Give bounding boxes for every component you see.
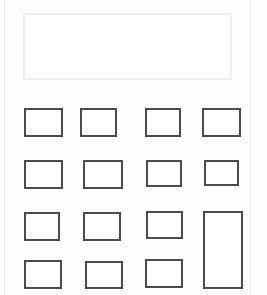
- key-r3c1[interactable]: [24, 212, 60, 241]
- key-r3c3[interactable]: [146, 211, 183, 239]
- key-r4c1[interactable]: [24, 260, 62, 289]
- key-r4c2[interactable]: [85, 261, 123, 289]
- calculator-keypad: [5, 0, 250, 295]
- calculator-app: [0, 0, 267, 295]
- calculator-body: [5, 0, 250, 295]
- key-r3c2[interactable]: [83, 212, 121, 241]
- key-r2c2[interactable]: [83, 160, 123, 189]
- key-equals[interactable]: [203, 211, 243, 289]
- panel-edge-right: [250, 0, 251, 295]
- key-r1c1[interactable]: [24, 108, 63, 137]
- key-r4c3[interactable]: [145, 259, 183, 288]
- key-r1c2[interactable]: [80, 108, 117, 137]
- key-r2c1[interactable]: [24, 160, 63, 189]
- key-r1c3[interactable]: [145, 108, 181, 137]
- key-r1c4[interactable]: [202, 108, 241, 137]
- key-r2c3[interactable]: [146, 160, 182, 187]
- key-r2c4[interactable]: [204, 160, 239, 186]
